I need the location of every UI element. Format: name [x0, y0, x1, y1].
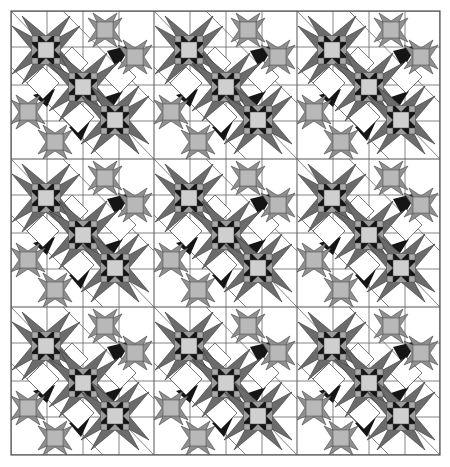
- quilt-diagram: [0, 0, 450, 467]
